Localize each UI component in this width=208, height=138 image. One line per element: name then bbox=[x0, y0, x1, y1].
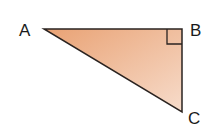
vertex-label-b: B bbox=[190, 21, 201, 40]
triangle-diagram: A B C bbox=[0, 0, 208, 138]
vertex-label-c: C bbox=[188, 109, 200, 128]
vertex-label-a: A bbox=[19, 21, 31, 40]
triangle-abc bbox=[44, 29, 182, 112]
